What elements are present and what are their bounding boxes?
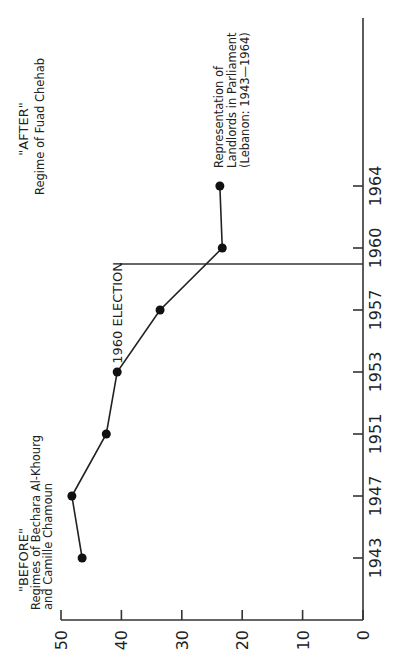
category-tick-label: 1953 [366,352,385,393]
category-tick-label: 1964 [366,166,385,207]
series-label-line1: Representation of [212,65,226,168]
data-point-1964 [215,182,224,191]
data-point-1957 [156,306,165,315]
before-line2: and Camille Chamoun [41,483,55,610]
value-tick-label: 20 [233,630,252,650]
category-tick-label: 1943 [366,538,385,579]
value-tick-label: 0 [354,630,373,640]
election-label: 1960 ELECTION [110,262,125,364]
category-tick-label: 1960 [366,228,385,269]
value-tick-label: 30 [173,630,192,650]
category-tick-label: 1951 [366,414,385,455]
data-point-1953 [113,368,122,377]
series-label-line2: Landlords in Parliament [225,32,239,168]
value-tick-label: 40 [112,630,131,650]
series-label-line3: (Lebanon: 1943—1964) [238,32,252,168]
after-title: "AFTER" [16,102,31,155]
category-tick-label: 1957 [366,290,385,331]
value-tick-label: 50 [52,630,71,650]
category-tick-label: 1947 [366,476,385,517]
landlord-representation-chart: 01020304050 1943194719511953195719601964… [0,0,393,665]
data-point-1951 [102,430,111,439]
data-point-1960 [218,244,227,253]
series-line [72,186,222,558]
value-tick-label: 10 [294,630,313,650]
data-point-1943 [78,554,87,563]
after-line1: Regime of Fuad Chehab [33,58,47,195]
data-point-1947 [67,492,76,501]
